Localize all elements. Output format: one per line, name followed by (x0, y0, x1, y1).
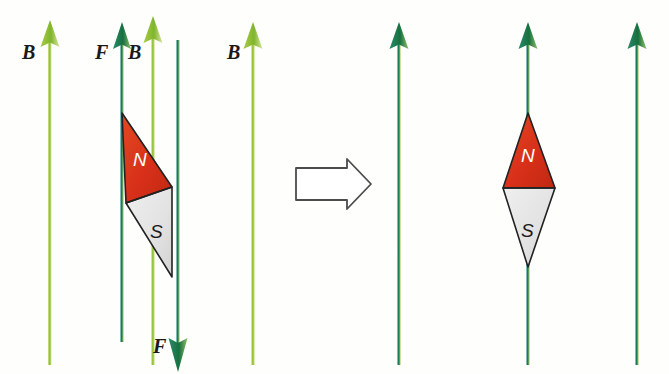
magnet-aligned (503, 113, 555, 267)
label-b-left: B (21, 41, 35, 63)
physics-diagram-magnet-in-field: B F B B F N S N S (0, 0, 669, 374)
magnet-aligned-north-label: N (521, 145, 535, 166)
field-line-7 (628, 22, 647, 365)
magnet-tilted (122, 113, 172, 277)
label-b-middle: B (127, 41, 141, 63)
magnet-aligned-south-label: S (521, 220, 534, 241)
label-f-bottom: F (152, 335, 167, 357)
magnet-tilted-north-label: N (133, 149, 147, 170)
diagram-canvas: B F B B F N S N S (0, 0, 669, 374)
field-line-1 (41, 20, 60, 365)
field-line-5 (390, 22, 409, 365)
label-b-right: B (226, 41, 240, 63)
block-arrow-right-icon (296, 159, 371, 209)
magnet-tilted-south-label: S (150, 221, 163, 242)
field-line-4 (244, 22, 263, 365)
label-f-top: F (94, 41, 109, 63)
